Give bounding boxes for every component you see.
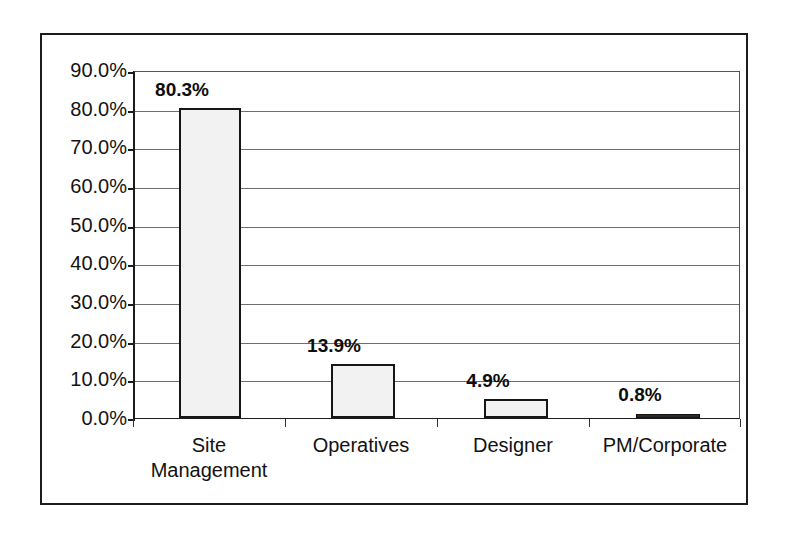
y-axis-tick-30 [128,304,135,306]
bar-value-label-operatives: 13.9% [299,335,369,357]
x-axis-category-site-management: Site Management [133,433,285,483]
figure-frame: 90.0% 80.0% 70.0% 60.0% 50.0% 40.0% 30.0… [40,33,748,505]
x-axis-tick-4 [740,419,741,427]
bar-value-label-designer: 4.9% [458,370,518,392]
x-axis-tick-2 [437,419,438,427]
plot-area [133,71,740,419]
bar-site-management[interactable] [179,108,241,419]
y-axis-tick-40 [128,265,135,267]
y-axis-tick-80 [128,111,135,113]
bar-chart: 90.0% 80.0% 70.0% 60.0% 50.0% 40.0% 30.0… [42,35,750,507]
y-tick-label-10: 10.0% [70,368,127,391]
y-axis: 90.0% 80.0% 70.0% 60.0% 50.0% 40.0% 30.0… [42,71,127,419]
bar-operatives[interactable] [331,364,395,418]
y-tick-label-40: 40.0% [70,252,127,275]
y-axis-tick-60 [128,188,135,190]
x-axis-category-operatives: Operatives [285,433,437,458]
x-axis-category-designer: Designer [437,433,589,458]
bar-pm-corporate[interactable] [636,414,700,418]
x-axis-tick-1 [285,419,286,427]
x-axis-category-pm-corporate: PM/Corporate [589,433,741,458]
y-tick-label-80: 80.0% [70,98,127,121]
y-tick-label-0: 0.0% [81,407,127,430]
y-tick-label-20: 20.0% [70,330,127,353]
y-tick-label-60: 60.0% [70,175,127,198]
y-axis-tick-20 [128,343,135,345]
x-axis-tick-3 [589,419,590,427]
y-tick-label-90: 90.0% [70,59,127,82]
x-axis-tick-0 [133,419,134,427]
y-tick-label-50: 50.0% [70,214,127,237]
y-tick-label-70: 70.0% [70,136,127,159]
y-tick-label-30: 30.0% [70,291,127,314]
y-axis-tick-10 [128,381,135,383]
y-axis-tick-70 [128,149,135,151]
y-axis-tick-50 [128,227,135,229]
y-axis-tick-90 [128,72,135,74]
bar-value-label-site-management: 80.3% [147,79,217,101]
bar-designer[interactable] [484,399,548,418]
bar-value-label-pm-corporate: 0.8% [610,384,670,406]
